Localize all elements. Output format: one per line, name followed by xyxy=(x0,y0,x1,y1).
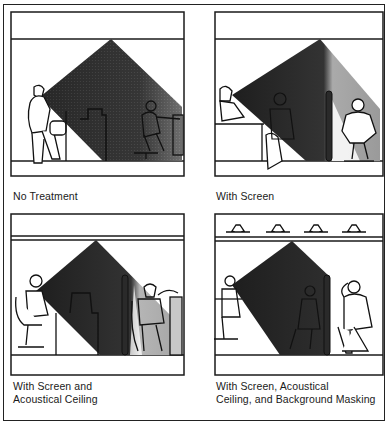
caption-no-treatment: No Treatment xyxy=(13,190,78,203)
caption-line: Ceiling, and Background Masking xyxy=(216,393,376,406)
panel-with-screen: With Screen xyxy=(214,11,384,177)
caption-line: With Screen, Acoustical xyxy=(216,380,376,393)
acoustic-screen xyxy=(122,275,128,355)
illustration-with-screen xyxy=(214,11,384,177)
panel-screen-ceiling-masking: With Screen, Acoustical Ceiling, and Bac… xyxy=(214,213,384,376)
caption-line: Acoustical Ceiling xyxy=(13,393,98,406)
illustration-screen-and-ceiling xyxy=(10,213,185,376)
caption-line: With Screen xyxy=(216,190,274,202)
illustration-screen-ceiling-masking xyxy=(214,213,384,376)
acoustic-screen xyxy=(324,275,330,355)
caption-line: No Treatment xyxy=(13,190,78,202)
illustration-no-treatment xyxy=(10,11,185,177)
caption-with-screen: With Screen xyxy=(216,190,274,203)
panel-screen-and-ceiling: With Screen and Acoustical Ceiling xyxy=(10,213,185,376)
acoustic-screen xyxy=(326,91,332,161)
caption-screen-and-ceiling: With Screen and Acoustical Ceiling xyxy=(13,380,98,406)
caption-line: With Screen and xyxy=(13,380,98,393)
panel-no-treatment: No Treatment xyxy=(10,11,185,177)
caption-screen-ceiling-masking: With Screen, Acoustical Ceiling, and Bac… xyxy=(216,380,376,406)
